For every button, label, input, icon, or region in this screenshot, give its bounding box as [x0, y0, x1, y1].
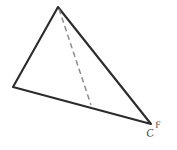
vertex-label-f: F	[154, 120, 161, 130]
vertex-label-c: C	[145, 127, 154, 139]
edge-outline-triangle	[13, 7, 151, 124]
edge-hidden-dashed	[59, 9, 91, 105]
geometry-figure: C F	[0, 0, 177, 150]
